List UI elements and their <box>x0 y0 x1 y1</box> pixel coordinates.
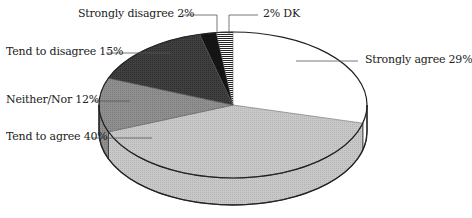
label-neither-nor: Neither/Nor 12% <box>6 93 99 106</box>
label-strongly-disagree: Strongly disagree 2% <box>78 7 194 20</box>
pie-body <box>99 32 367 205</box>
label-strongly-agree: Strongly agree 29% <box>365 53 472 66</box>
label-tend-to-agree: Tend to agree 40% <box>6 130 108 143</box>
label-tend-to-disagree: Tend to disagree 15% <box>6 45 123 58</box>
label-dk: 2% DK <box>263 7 300 20</box>
